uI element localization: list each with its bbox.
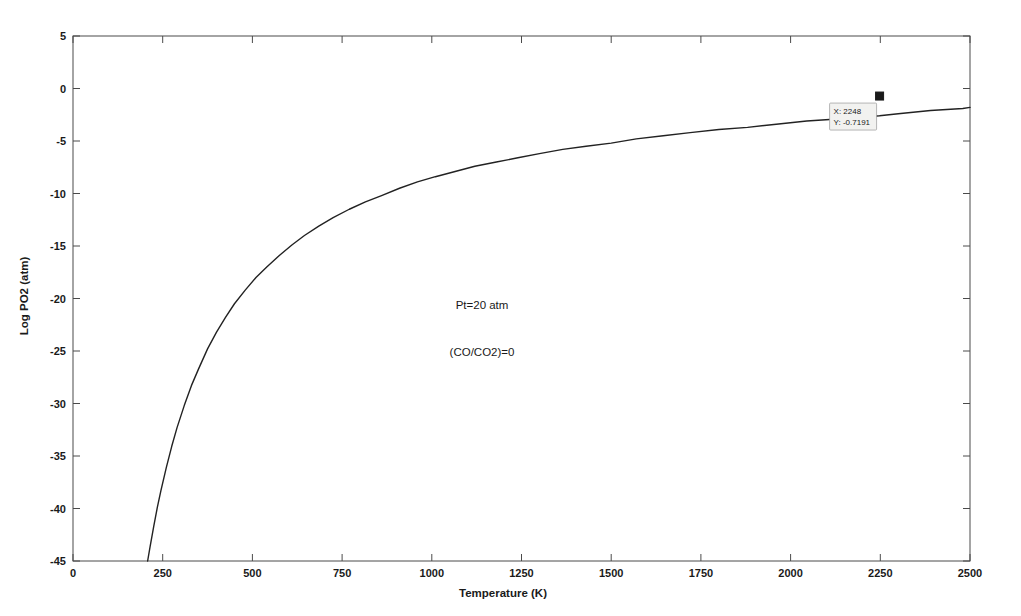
- figure-canvas: 02505007501000125015001750200022502500 5…: [0, 0, 1021, 616]
- y-tick-label: -45: [50, 555, 66, 567]
- y-tick-label: -25: [50, 345, 66, 357]
- y-tick-label: 0: [60, 83, 66, 95]
- data-curve[interactable]: [148, 107, 970, 561]
- y-tick-label: -20: [50, 293, 66, 305]
- x-tick-label: 0: [70, 567, 76, 579]
- y-axis-title: Log PO2 (atm): [18, 257, 30, 336]
- x-tick-label: 1500: [599, 567, 623, 579]
- x-tick-label: 1750: [689, 567, 713, 579]
- data-series-group[interactable]: [148, 107, 970, 561]
- y-tick-label: -30: [50, 398, 66, 410]
- chart-annotation: Pt=20 atm: [456, 299, 509, 311]
- y-tick-label: -15: [50, 240, 66, 252]
- y-tick-label: 5: [60, 30, 66, 42]
- chart-annotation: (CO/CO2)=0: [450, 346, 515, 358]
- x-tick-label: 1250: [509, 567, 533, 579]
- data-tip-marker[interactable]: [876, 92, 884, 100]
- data-tip-group[interactable]: X: 2248Y: -0.7191: [830, 92, 884, 130]
- x-tick-label: 1000: [420, 567, 444, 579]
- chart-plot[interactable]: 02505007501000125015001750200022502500 5…: [0, 0, 1021, 616]
- y-axis-tick-labels: 50-5-10-15-20-25-30-35-40-45: [50, 30, 66, 567]
- annotations-group: Pt=20 atm(CO/CO2)=0: [450, 299, 515, 358]
- x-axis-title: Temperature (K): [459, 587, 547, 599]
- y-tick-label: -5: [56, 135, 66, 147]
- x-axis-tick-labels: 02505007501000125015001750200022502500: [70, 567, 982, 579]
- x-tick-label: 2250: [868, 567, 892, 579]
- x-tick-label: 250: [154, 567, 172, 579]
- y-tick-label: -35: [50, 450, 66, 462]
- x-tick-label: 750: [333, 567, 351, 579]
- y-tick-label: -10: [50, 188, 66, 200]
- x-tick-label: 2500: [958, 567, 982, 579]
- data-tip-x-value: X: 2248: [834, 107, 862, 116]
- data-tip-y-value: Y: -0.7191: [834, 118, 871, 127]
- y-tick-label: -40: [50, 503, 66, 515]
- x-tick-label: 2000: [778, 567, 802, 579]
- x-tick-label: 500: [243, 567, 261, 579]
